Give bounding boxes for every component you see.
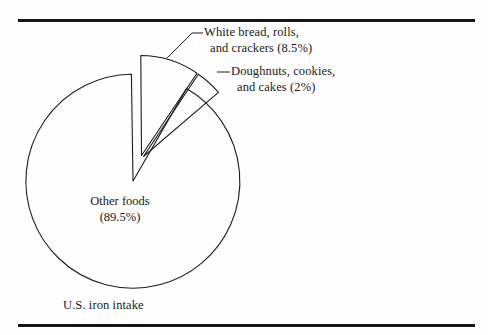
leader-line-white-bread xyxy=(167,33,203,58)
callout-label-white-bread-line1: White bread, rolls, xyxy=(204,25,299,39)
callout-label-doughnuts-line1: Doughnuts, cookies, xyxy=(231,64,335,78)
slice-label-other-foods-line1: Other foods xyxy=(90,194,149,208)
callout-label-doughnuts: Doughnuts, cookies, and cakes (2%) xyxy=(231,64,335,95)
pie-slice-white-bread xyxy=(141,56,197,156)
slice-label-other-foods: Other foods (89.5%) xyxy=(60,194,180,225)
slice-label-other-foods-line2: (89.5%) xyxy=(100,210,141,224)
figure-container: White bread, rolls, and crackers (8.5%) … xyxy=(0,0,488,335)
callout-label-white-bread: White bread, rolls, and crackers (8.5%) xyxy=(204,25,312,56)
callout-label-doughnuts-line2: and cakes (2%) xyxy=(231,80,335,96)
figure-caption: U.S. iron intake xyxy=(63,298,144,313)
pie-slice-other-foods xyxy=(26,74,240,288)
callout-label-white-bread-line2: and crackers (8.5%) xyxy=(204,41,312,57)
